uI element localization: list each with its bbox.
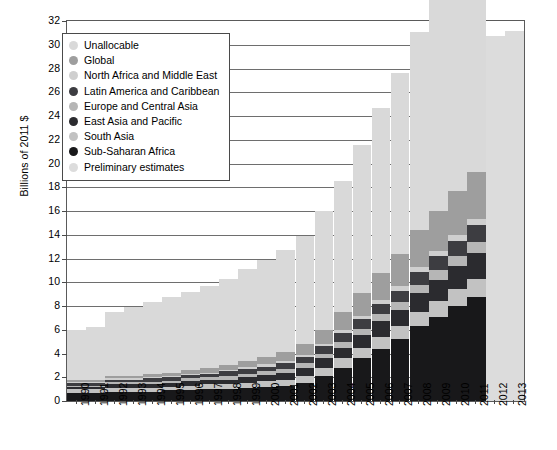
y-tick-label: 14 xyxy=(4,229,60,239)
legend-swatch-icon xyxy=(69,41,78,50)
x-tick-mark xyxy=(342,400,343,404)
bar-segment xyxy=(353,335,372,348)
x-tick-label: 2006 xyxy=(384,383,395,406)
x-tick-mark xyxy=(133,400,134,404)
bar-1999[interactable] xyxy=(238,269,257,401)
bar-segment xyxy=(372,273,391,300)
x-tick-label: 2009 xyxy=(441,383,452,406)
bar-2000[interactable] xyxy=(257,260,276,401)
bar-segment xyxy=(315,211,334,330)
bar-2002[interactable] xyxy=(296,236,315,401)
x-tick-mark xyxy=(323,400,324,404)
bar-segment xyxy=(410,32,429,230)
x-tick-label: 2005 xyxy=(365,383,376,406)
x-tick-mark xyxy=(171,400,172,404)
x-tick-label: 1992 xyxy=(118,383,129,406)
legend-item[interactable]: Preliminary estimates xyxy=(69,160,219,175)
bar-segment xyxy=(429,301,448,316)
bar-segment xyxy=(67,330,86,380)
legend-item[interactable]: Global xyxy=(69,53,219,68)
legend-swatch-icon xyxy=(69,117,78,126)
bar-segment xyxy=(276,373,295,380)
bar-2005[interactable] xyxy=(353,145,372,402)
x-tick-label: 1991 xyxy=(99,383,110,406)
y-tick-label: 28 xyxy=(4,63,60,73)
x-tick-mark xyxy=(152,400,153,404)
x-tick-label: 2008 xyxy=(422,383,433,406)
legend-label: Unallocable xyxy=(84,40,139,51)
bar-2011[interactable] xyxy=(467,0,486,401)
bar-segment xyxy=(391,291,410,303)
y-tick-label: 6 xyxy=(4,324,60,334)
x-tick-label: 2010 xyxy=(460,383,471,406)
bar-segment xyxy=(315,358,334,368)
legend-label: Preliminary estimates xyxy=(84,162,184,173)
bar-segment xyxy=(353,348,372,359)
y-tick-label: 12 xyxy=(4,253,60,263)
x-tick-label: 2007 xyxy=(403,383,414,406)
y-tick-label: 2 xyxy=(4,371,60,381)
bar-segment xyxy=(200,286,219,368)
bar-2008[interactable] xyxy=(410,32,429,401)
x-tick-mark xyxy=(247,400,248,404)
y-axis: 02468101214161820222426283032 xyxy=(0,20,60,400)
x-tick-mark xyxy=(494,400,495,404)
x-tick-mark xyxy=(95,400,96,404)
x-tick-mark xyxy=(228,400,229,404)
legend-label: South Asia xyxy=(84,131,134,142)
chart-figure: Billions of 2011 $ 024681012141618202224… xyxy=(0,0,557,450)
bar-2007[interactable] xyxy=(391,73,410,401)
y-tick-mark xyxy=(62,401,67,402)
y-tick-label: 30 xyxy=(4,39,60,49)
x-tick-mark xyxy=(361,400,362,404)
bar-2006[interactable] xyxy=(372,108,391,401)
bar-2010[interactable] xyxy=(448,0,467,401)
x-tick-label: 2000 xyxy=(270,383,281,406)
legend-item[interactable]: East Asia and Pacific xyxy=(69,114,219,129)
x-tick-label: 1990 xyxy=(80,383,91,406)
x-tick-mark xyxy=(437,400,438,404)
legend-swatch-icon xyxy=(69,56,78,65)
bar-segment xyxy=(372,321,391,336)
bar-segment xyxy=(391,302,410,309)
bar-2001[interactable] xyxy=(276,250,295,401)
bar-segment xyxy=(372,304,391,315)
bar-segment xyxy=(448,191,467,235)
x-tick-mark xyxy=(190,400,191,404)
y-tick-label: 32 xyxy=(4,15,60,25)
x-tick-mark xyxy=(399,400,400,404)
x-tick-mark xyxy=(513,400,514,404)
bar-2004[interactable] xyxy=(334,181,353,401)
bar-segment xyxy=(372,314,391,321)
bar-segment xyxy=(429,0,448,211)
legend-label: Latin America and Caribbean xyxy=(84,86,219,97)
legend-label: East Asia and Pacific xyxy=(84,116,182,127)
legend-item[interactable]: Unallocable xyxy=(69,38,219,53)
y-tick-label: 4 xyxy=(4,348,60,358)
bar-segment xyxy=(315,346,334,353)
bar-2012[interactable] xyxy=(486,36,505,401)
x-tick-mark xyxy=(380,400,381,404)
x-tick-label: 2013 xyxy=(517,383,528,406)
bar-segment xyxy=(353,319,372,329)
bar-segment xyxy=(315,330,334,344)
x-tick-label: 1993 xyxy=(137,383,148,406)
x-tick-label: 2003 xyxy=(327,383,338,406)
bar-segment xyxy=(486,36,505,401)
bar-segment xyxy=(448,266,467,290)
legend-item[interactable]: Latin America and Caribbean xyxy=(69,84,219,99)
legend-item[interactable]: South Asia xyxy=(69,129,219,144)
legend-item[interactable]: Sub-Saharan Africa xyxy=(69,144,219,159)
bar-segment xyxy=(410,230,429,267)
bar-segment xyxy=(467,225,486,242)
bar-segment xyxy=(296,236,315,344)
bar-2013[interactable] xyxy=(505,31,524,402)
bar-segment xyxy=(391,326,410,339)
bar-segment xyxy=(353,145,372,293)
legend-item[interactable]: Europe and Central Asia xyxy=(69,99,219,114)
legend-item[interactable]: North Africa and Middle East xyxy=(69,68,219,83)
bar-2003[interactable] xyxy=(315,211,334,401)
legend-swatch-icon xyxy=(69,163,78,172)
bar-2009[interactable] xyxy=(429,0,448,401)
x-tick-label: 1999 xyxy=(251,383,262,406)
